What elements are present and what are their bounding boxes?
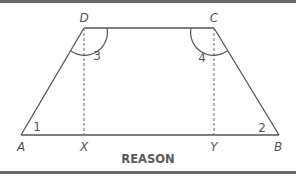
bottom-border [0,171,296,174]
trapezoid-sides [21,28,279,135]
angle-label-1: 1 [33,120,41,134]
segment-da [21,28,84,135]
angle-label-2: 2 [258,121,266,135]
top-border [0,0,296,3]
vertex-label-b: B [274,140,282,154]
vertex-label-a: A [16,140,25,154]
segment-bc [214,28,279,135]
angle-label-4: 4 [198,51,206,65]
diagram-frame: D C A X Y B 1 2 3 4 REASON [0,0,296,179]
vertex-label-d: D [79,11,88,25]
vertex-label-c: C [210,11,219,25]
vertex-label-y: Y [210,140,219,154]
altitudes [84,28,214,135]
trapezoid-diagram: D C A X Y B 1 2 3 4 REASON [0,0,296,179]
caption-reason: REASON [121,152,174,166]
vertex-label-x: X [79,140,89,154]
angle-label-3: 3 [93,49,101,63]
